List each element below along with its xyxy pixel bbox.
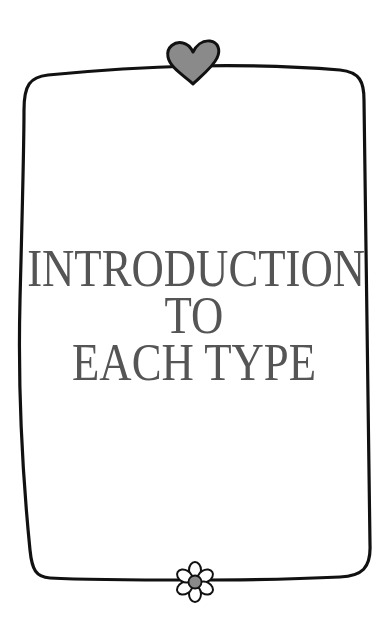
title-line-3: EACH TYPE [27,339,361,386]
title-line-1: INTRODUCTION [27,245,361,292]
page-title: INTRODUCTION TO EACH TYPE [0,245,388,386]
flower-icon [175,562,216,602]
title-line-2: TO [27,292,361,339]
heart-icon [168,41,219,84]
